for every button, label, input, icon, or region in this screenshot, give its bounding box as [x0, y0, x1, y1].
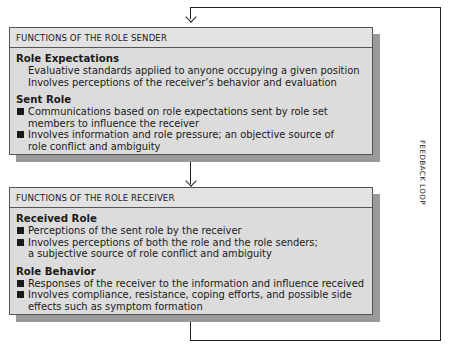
received-role-section: Received Role Perceptions of the sent ro…: [16, 213, 366, 260]
role-behavior-section: Role Behavior Responses of the receiver …: [16, 266, 366, 313]
feedback-line-top: [190, 7, 441, 8]
section-title: Received Role: [16, 213, 366, 225]
section-title: Role Behavior: [16, 266, 366, 278]
list-item-line: Communications based on role expectation…: [28, 106, 366, 118]
square-bullet-icon: [17, 227, 24, 234]
role-sender-header: FUNCTIONS OF THE ROLE SENDER: [10, 28, 372, 48]
role-receiver-box: FUNCTIONS OF THE ROLE RECEIVER Received …: [9, 187, 373, 315]
list-item-line: effects such as symptom formation: [28, 301, 366, 313]
list-item: Involves information and role pressure; …: [16, 129, 366, 152]
square-bullet-icon: [17, 291, 24, 298]
role-expectations-section: Role Expectations Evaluative standards a…: [16, 53, 366, 88]
list-item-line: a subjective source of role conflict and…: [28, 248, 366, 260]
square-bullet-icon: [17, 108, 24, 115]
arrow-down-icon: [185, 11, 196, 22]
feedback-line-bottom: [190, 340, 441, 341]
arrow-down-icon: [185, 175, 196, 186]
list-item: Involves perceptions of both the role an…: [16, 237, 366, 260]
sent-role-section: Sent Role Communications based on role e…: [16, 94, 366, 152]
list-item-line: Responses of the receiver to the informa…: [28, 278, 366, 290]
list-item-line: members to influence the receiver: [28, 118, 366, 130]
role-sender-box: FUNCTIONS OF THE ROLE SENDER Role Expect…: [9, 27, 373, 155]
list-item: Evaluative standards applied to anyone o…: [16, 65, 366, 77]
square-bullet-icon: [17, 239, 24, 246]
role-receiver-header: FUNCTIONS OF THE ROLE RECEIVER: [10, 188, 372, 208]
list-item-line: Involves information and role pressure; …: [28, 129, 366, 141]
section-title: Sent Role: [16, 94, 366, 106]
section-title: Role Expectations: [16, 53, 366, 65]
list-item-line: Perceptions of the sent role by the rece…: [28, 225, 366, 237]
list-item: Involves compliance, resistance, coping …: [16, 289, 366, 312]
square-bullet-icon: [17, 131, 24, 138]
list-item: Involves perceptions of the receiver’s b…: [16, 77, 366, 89]
list-item: Responses of the receiver to the informa…: [16, 278, 366, 290]
list-item-line: Involves compliance, resistance, coping …: [28, 289, 366, 301]
feedback-line-from-receiver: [190, 320, 191, 341]
feedback-loop-label: FEEDBACK LOOP: [418, 140, 427, 205]
list-item: Perceptions of the sent role by the rece…: [16, 225, 366, 237]
list-item-line: role conflict and ambiguity: [28, 141, 366, 153]
list-item-line: Involves perceptions of both the role an…: [28, 237, 366, 249]
list-item: Communications based on role expectation…: [16, 106, 366, 129]
feedback-line-right: [440, 7, 441, 341]
square-bullet-icon: [17, 280, 24, 287]
